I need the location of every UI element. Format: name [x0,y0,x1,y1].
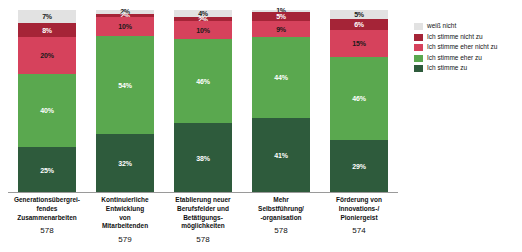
category-label-line: Zusammenarbeiten [10,214,84,223]
legend-label: weiß nicht [427,23,456,30]
bar-group: 7%8%20%40%25% [16,10,78,193]
bar-segment[interactable]: 46% [330,57,388,140]
category-label: Förderung vonInnovations-/Pioniergeist57… [322,196,396,237]
bar-segment[interactable]: 6% [330,19,388,30]
segment-value-label: 6% [354,21,364,28]
sample-size: 578 [166,235,240,246]
legend-label: Ich stimme zu [427,65,467,72]
category-label-line: Berufsfelder und [166,205,240,214]
stacked-bar[interactable]: 5%6%15%46%29% [330,10,388,193]
bar-segment[interactable]: 41% [252,118,310,193]
category-label: MehrSelbstführung/-organisation578 [244,196,318,237]
segment-value-label: 54% [118,82,131,89]
segment-value-label: 15% [352,40,365,47]
category-label-line: möglichkeiten [166,222,240,231]
segment-value-label: 5% [354,11,364,18]
category-label: Etablierung neuerBerufsfelder undBetätig… [166,196,240,246]
stacked-bar-chart: 7%8%20%40%25%2%2%10%54%32%4%2%10%46%38%1… [0,0,522,252]
legend-swatch-icon [414,34,423,41]
segment-value-label: 9% [276,26,286,33]
legend-label: Ich stimme nicht zu [427,34,483,41]
bar-segment[interactable]: 40% [18,74,76,147]
segment-value-label: 20% [40,52,53,59]
stacked-bar[interactable]: 1%5%9%44%41% [252,10,310,193]
bar-segment[interactable]: 20% [18,37,76,74]
legend-label: Ich stimme eher nicht zu [427,44,497,51]
segment-value-label: 7% [42,13,52,20]
bar-group: 5%6%15%46%29% [328,10,390,193]
category-label: KontinuierlicheEntwicklungvonMitarbeiten… [88,196,162,246]
bar-segment[interactable]: 44% [252,37,310,118]
stacked-bar[interactable]: 2%2%10%54%32% [96,10,154,193]
bar-segment[interactable]: 38% [174,123,232,193]
legend-swatch-icon [414,44,423,51]
x-axis-line [8,192,398,193]
sample-size: 578 [244,226,318,237]
segment-value-label: 10% [118,23,131,30]
bar-segment[interactable]: 32% [96,134,154,193]
legend-item[interactable]: weiß nicht [414,22,518,31]
sample-size: 578 [10,226,84,237]
segment-value-label: 5% [276,13,286,20]
legend-item[interactable]: Ich stimme eher zu [414,54,518,63]
segment-value-label: 10% [196,27,209,34]
bar-segment[interactable]: 54% [96,36,154,135]
bar-segment[interactable]: 46% [174,39,232,123]
stacked-bar[interactable]: 7%8%20%40%25% [18,10,76,193]
segment-value-label: 29% [352,163,365,170]
segment-value-label: 8% [42,27,52,34]
category-label-line: Etablierung neuer [166,196,240,205]
segment-value-label: 25% [40,167,53,174]
category-label-line: von [88,214,162,223]
bar-segment[interactable]: 8% [18,23,76,38]
bar-segment[interactable]: 7% [18,10,76,23]
plot-area: 7%8%20%40%25%2%2%10%54%32%4%2%10%46%38%1… [8,10,398,193]
category-label-line: Selbstführung/ [244,205,318,214]
bar-group: 4%2%10%46%38% [172,10,234,193]
legend-item[interactable]: Ich stimme nicht zu [414,33,518,42]
legend-item[interactable]: Ich stimme eher nicht zu [414,43,518,52]
segment-value-label: 41% [274,152,287,159]
legend-swatch-icon [414,65,423,72]
bar-segment[interactable]: 10% [96,17,154,35]
bar-segment[interactable]: 25% [18,147,76,193]
category-label-line: fendes [10,205,84,214]
sample-size: 579 [88,235,162,246]
category-label-line: Mitarbeitenden [88,222,162,231]
segment-value-label: 46% [196,78,209,85]
bar-segment[interactable]: 15% [330,30,388,57]
x-axis-labels: Generationsübergrei-fendesZusammenarbeit… [8,196,398,252]
bar-segment[interactable]: 10% [174,21,232,39]
sample-size: 574 [322,226,396,237]
category-label-line: Innovations-/ [322,205,396,214]
category-label-line: Entwicklung [88,205,162,214]
stacked-bar[interactable]: 4%2%10%46%38% [174,10,232,193]
category-label-line: Kontinuierliche [88,196,162,205]
category-label-line: Mehr [244,196,318,205]
bar-segment[interactable]: 29% [330,140,388,193]
bar-segment[interactable]: 5% [330,10,388,19]
legend-label: Ich stimme eher zu [427,55,482,62]
segment-value-label: 44% [274,74,287,81]
chart-legend: weiß nichtIch stimme nicht zuIch stimme … [414,22,518,75]
legend-swatch-icon [414,55,423,62]
segment-value-label: 38% [196,155,209,162]
legend-item[interactable]: Ich stimme zu [414,64,518,73]
category-label-line: Generationsübergrei- [10,196,84,205]
segment-value-label: 46% [352,95,365,102]
category-label-line: Betätigungs- [166,214,240,223]
bar-group: 1%5%9%44%41% [250,10,312,193]
legend-swatch-icon [414,23,423,30]
segment-value-label: 40% [40,107,53,114]
category-label-line: -organisation [244,214,318,223]
bar-group: 2%2%10%54%32% [94,10,156,193]
bar-segment[interactable]: 5% [252,12,310,21]
category-label-line: Förderung von [322,196,396,205]
segment-value-label: 32% [118,160,131,167]
category-label-line: Pioniergeist [322,214,396,223]
category-label: Generationsübergrei-fendesZusammenarbeit… [10,196,84,237]
bar-segment[interactable]: 9% [252,21,310,37]
